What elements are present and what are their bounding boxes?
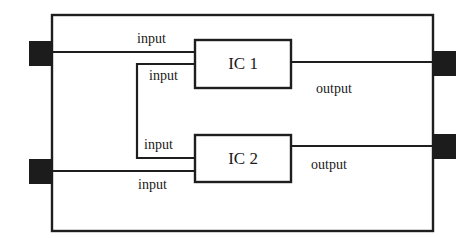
left-port-2 xyxy=(29,159,53,184)
ic2-bottom-input-label: input xyxy=(138,177,167,192)
ic2-loop-input-label: input xyxy=(144,137,173,152)
ic2-label: IC 2 xyxy=(228,149,258,168)
left-port-1 xyxy=(29,41,53,66)
ic1-loop-input-label: input xyxy=(149,68,178,83)
right-port-2 xyxy=(432,134,456,159)
ic1-top-input-label: input xyxy=(137,31,166,46)
ic1-label: IC 1 xyxy=(228,54,258,73)
block-diagram: IC 1 IC 2 input input input input output… xyxy=(0,0,473,238)
ic2-output-label: output xyxy=(311,157,347,172)
right-port-1 xyxy=(432,51,456,76)
ic1-output-label: output xyxy=(316,81,352,96)
